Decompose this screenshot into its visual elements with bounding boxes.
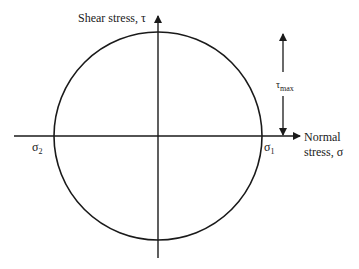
normal-stress-label-line2: stress, σ bbox=[304, 145, 343, 160]
shear-stress-axis-label: Shear stress, τ bbox=[78, 12, 146, 25]
sigma2-label: σ2 bbox=[32, 141, 42, 158]
normal-stress-label-line1: Normal bbox=[304, 130, 343, 145]
sigma2-subscript: 2 bbox=[38, 147, 42, 156]
tau-max-subscript: max bbox=[280, 84, 294, 93]
sigma1-label: σ1 bbox=[264, 141, 274, 158]
normal-stress-axis-label: Normal stress, σ bbox=[304, 130, 343, 160]
sigma1-subscript: 1 bbox=[270, 147, 274, 156]
shear-stress-label-text: Shear stress, τ bbox=[78, 11, 146, 25]
tau-max-label: τmax bbox=[276, 78, 294, 95]
